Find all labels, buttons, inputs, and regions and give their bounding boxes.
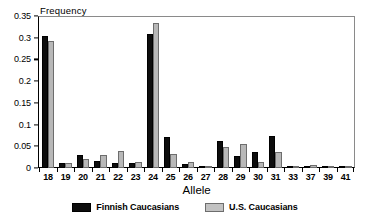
y-axis-title: Frequency: [40, 5, 87, 16]
y-axis-tick-mark: [34, 102, 38, 103]
bar: [223, 147, 229, 168]
bar: [118, 151, 124, 168]
y-axis-tick-label: 0.2: [19, 76, 31, 86]
bar-group: [162, 16, 180, 168]
bar-group: [232, 16, 250, 168]
legend-entry: Finnish Caucasians: [72, 202, 179, 212]
bar-group: [57, 16, 75, 168]
bar-group: [179, 16, 197, 168]
legend-swatch: [72, 203, 91, 212]
y-axis-tick-mark: [34, 124, 38, 125]
bar-chart-figure: Frequency 00.050.10.150.20.250.30.35 181…: [0, 0, 370, 221]
bar-group: [267, 16, 285, 168]
bar-group: [109, 16, 127, 168]
bar: [275, 152, 281, 169]
bar-group: [302, 16, 320, 168]
legend-label: Finnish Caucasians: [96, 202, 179, 212]
bar-group: [319, 16, 337, 168]
y-axis-tick-mark: [34, 59, 38, 60]
y-axis-tick-label: 0.05: [14, 141, 31, 151]
y-axis-tick-mark: [34, 146, 38, 147]
y-axis-tick-mark: [34, 81, 38, 82]
bar-group: [284, 16, 302, 168]
legend-label: U.S. Caucasians: [229, 202, 298, 212]
bar-groups-container: [39, 16, 354, 168]
x-axis-title: Allele: [39, 184, 354, 196]
bar: [100, 155, 106, 168]
bar-group: [127, 16, 145, 168]
bar: [240, 144, 246, 168]
bar: [48, 41, 54, 168]
bar: [153, 23, 159, 168]
bar-group: [92, 16, 110, 168]
bar-group: [197, 16, 215, 168]
bar-group: [249, 16, 267, 168]
y-axis-tick-label: 0: [26, 163, 31, 173]
y-axis-tick-label: 0.15: [14, 98, 31, 108]
y-axis-tick-mark: [34, 37, 38, 38]
bar-group: [214, 16, 232, 168]
legend-swatch: [205, 203, 224, 212]
bar: [170, 154, 176, 168]
chart-legend: Finnish CaucasiansU.S. Caucasians: [0, 202, 370, 212]
y-axis-tick-label: 0.1: [19, 120, 31, 130]
bar-group: [39, 16, 57, 168]
y-axis-tick-label: 0.35: [14, 11, 31, 21]
y-axis-tick-label: 0.25: [14, 54, 31, 64]
bar-group: [337, 16, 355, 168]
bar-group: [144, 16, 162, 168]
y-axis-tick-mark: [34, 167, 38, 168]
y-axis-tick-label: 0.3: [19, 33, 31, 43]
legend-entry: U.S. Caucasians: [205, 202, 298, 212]
y-axis-tick-labels: 00.050.10.150.20.250.30.35: [0, 0, 38, 221]
y-axis-tick-mark: [34, 15, 38, 16]
bar-group: [74, 16, 92, 168]
bar: [83, 159, 89, 168]
